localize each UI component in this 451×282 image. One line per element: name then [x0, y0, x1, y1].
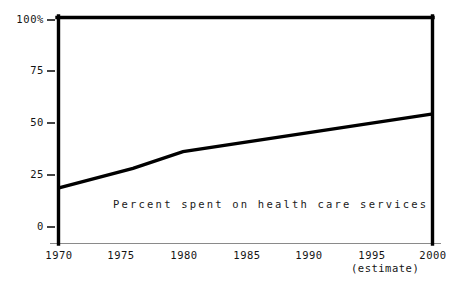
y-tick-label-25: 25: [4, 168, 44, 180]
y-tick-label-0: 0: [4, 220, 44, 232]
health-care-spending-chart: 100% 75 50 25 0 1970 1975 1980 1985 1990…: [0, 0, 451, 282]
x-tick-label-1985: 1985: [219, 249, 275, 261]
chart-background: [0, 0, 451, 282]
estimate-note: (estimate): [351, 262, 419, 274]
y-tick-label-75: 75: [4, 64, 44, 76]
y-tick-label-100: 100%: [4, 13, 44, 25]
x-tick-label-1980: 1980: [156, 249, 212, 261]
x-tick-label-1995: 1995: [344, 249, 400, 261]
series-caption: Percent spent on health care services: [113, 198, 428, 210]
chart-canvas: [0, 0, 451, 282]
x-tick-label-1970: 1970: [31, 249, 87, 261]
x-tick-label-2000: 2000: [405, 249, 451, 261]
x-tick-label-1990: 1990: [281, 249, 337, 261]
x-tick-label-1975: 1975: [93, 249, 149, 261]
y-tick-label-50: 50: [4, 116, 44, 128]
